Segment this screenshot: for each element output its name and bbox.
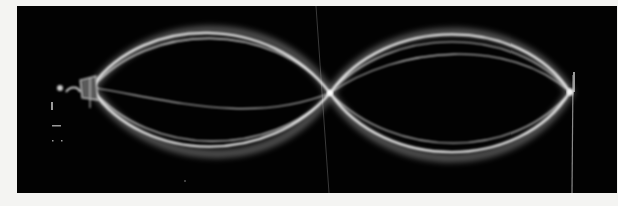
right-node-highlight — [567, 89, 574, 96]
standing-wave-photo — [17, 6, 617, 193]
center-node-highlight — [327, 90, 333, 96]
left-clamp — [57, 76, 98, 108]
vibrating-string-figure — [17, 6, 617, 193]
left-apparatus-marks — [51, 102, 63, 142]
